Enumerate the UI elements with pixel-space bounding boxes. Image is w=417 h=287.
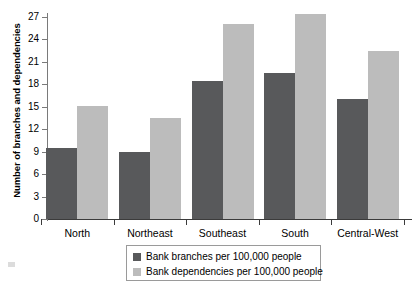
bar-chart: Number of branches and dependencies 0369… [0,0,417,287]
legend-item-label: Bank branches per 100,000 people [146,251,302,262]
bar [46,148,77,219]
x-axis-tick [186,220,187,225]
x-axis-tick-label: Central-West [318,227,417,239]
bar [223,24,254,219]
bars-layer [0,0,417,219]
x-axis-tick [114,220,115,225]
legend-item-label: Bank dependencies per 100,000 people [146,266,323,277]
bar [192,81,223,219]
y-axis-tick [42,219,48,220]
legend-item: Bank branches per 100,000 people [133,249,315,264]
bar [119,152,150,219]
dark-square-swatch [133,253,141,261]
x-axis-tick [404,220,405,225]
bar [150,118,181,219]
x-axis-tick [259,220,260,225]
scan-artifact [8,262,15,267]
bar [264,73,295,219]
x-axis-tick [41,220,42,225]
bar [337,99,368,219]
bar [295,14,326,219]
light-square-swatch [133,268,141,276]
x-axis-tick [331,220,332,225]
x-axis-line [41,219,412,220]
chart-legend: Bank branches per 100,000 people Bank de… [126,245,321,281]
bar [77,106,108,219]
legend-item: Bank dependencies per 100,000 people [133,264,315,279]
bar [368,51,399,219]
